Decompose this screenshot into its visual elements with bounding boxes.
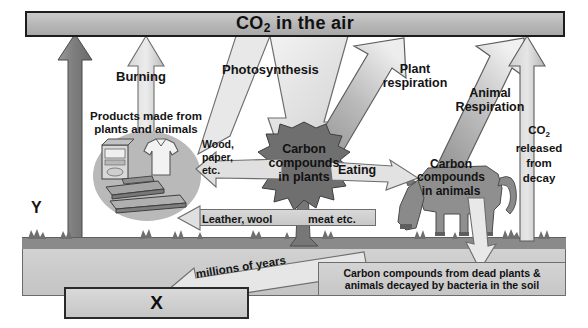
soil-text-line2: animals decayed by bacteria in the soil: [345, 279, 539, 291]
animal-resp-line1: Animal: [469, 86, 511, 100]
photosynthesis-label: Photosynthesis: [222, 63, 319, 78]
carbon-plants-line1: Carbon: [282, 142, 326, 156]
animals-to-soil-arrow: [462, 198, 498, 270]
co2-banner-prefix: CO: [236, 13, 264, 33]
products-label-line2: plants and animals: [94, 123, 198, 135]
carbon-animals-line2: compounds: [417, 170, 485, 184]
products-label-line1: Products made from: [90, 110, 202, 122]
shirt-icon: [144, 139, 178, 175]
wood-paper-line2: paper,: [202, 151, 233, 163]
burning-label: Burning: [116, 70, 166, 85]
co2-decay-line1: CO2: [528, 124, 550, 136]
co2-banner-suffix: in the air: [271, 13, 354, 33]
soil-text-line1: Carbon compounds from dead plants &: [343, 267, 540, 279]
animal-resp-line2: Respiration: [456, 100, 525, 114]
marker-y-label: Y: [31, 199, 42, 217]
plant-resp-line2: respiration: [383, 76, 448, 90]
wood-paper-line1: Wood,: [202, 138, 234, 150]
plant-resp-line1: Plant: [400, 62, 431, 76]
co2-decay-line3: from: [526, 157, 552, 169]
carbon-animals-line3: in animals: [422, 184, 481, 198]
planks-icon: [106, 176, 186, 213]
carbon-plants-line3: in plants: [278, 170, 329, 184]
co2-in-air-banner: CO2 in the air: [25, 11, 565, 37]
co2-decay-prefix: CO: [528, 124, 545, 136]
carbon-animals-line1: Carbon: [430, 157, 472, 171]
carbon-cycle-diagram: CO2 in the air: [0, 0, 588, 328]
carbon-compounds-animals-label: Carbon compounds in animals: [398, 158, 504, 198]
co2-banner-label: CO2 in the air: [236, 13, 354, 35]
soil-carbon-text-panel: Carbon compounds from dead plants & anim…: [318, 262, 566, 296]
animal-respiration-label: Animal Respiration: [444, 86, 536, 114]
marker-x-label: X: [150, 292, 163, 314]
carbon-plants-line2: compounds: [269, 156, 340, 170]
co2-decay-subscript: 2: [545, 130, 549, 139]
leather-wool-label: Leather, wool: [202, 213, 272, 225]
carbon-compounds-plants-label: Carbon compounds in plants: [250, 142, 358, 184]
meat-etc-label: meat etc.: [308, 213, 356, 225]
co2-decay-line4: decay: [523, 172, 556, 184]
products-label: Products made from plants and animals: [86, 110, 206, 136]
carton-icon: [102, 139, 134, 179]
co2-decay-line2: released: [516, 142, 563, 154]
co2-released-decay-label: CO2 released from decay: [506, 123, 572, 186]
marker-x-box: X: [64, 287, 249, 319]
wood-paper-etc-label: Wood, paper, etc.: [202, 138, 234, 177]
wood-paper-line3: etc.: [202, 164, 220, 176]
co2-banner-subscript: 2: [264, 21, 271, 35]
